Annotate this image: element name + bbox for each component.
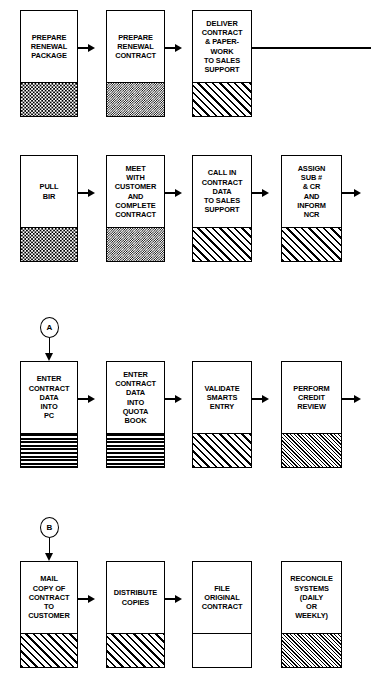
box-label: DELIVER CONTRACT & PAPER- WORK TO SALES … <box>193 11 251 82</box>
process-box-enter-contract-data-into-pc[interactable]: ENTER CONTRACT DATA INTO PC <box>20 361 78 468</box>
process-box-pull-bir[interactable]: PULL BIR <box>20 155 78 262</box>
box-label: ASSIGN SUB # & CR AND INFORM NCR <box>282 156 341 227</box>
process-box-reconcile-systems[interactable]: RECONCILE SYSTEMS (DAILY OR WEEKLY) <box>281 561 342 668</box>
connector-line <box>165 598 177 600</box>
process-box-perform-credit-review[interactable]: PERFORM CREDIT REVIEW <box>281 361 342 468</box>
box-fill-horizontal-lines <box>21 433 77 467</box>
process-box-assign-sub-cr[interactable]: ASSIGN SUB # & CR AND INFORM NCR <box>281 155 342 262</box>
arrow-right-exit <box>354 395 361 403</box>
box-label: PERFORM CREDIT REVIEW <box>282 362 341 433</box>
arrow-down <box>45 553 53 561</box>
connector-circle-b: B <box>40 517 59 538</box>
box-label: ENTER CONTRACT DATA INTO QUOTA BOOK <box>107 362 164 433</box>
connector-line <box>165 47 177 49</box>
connector-line <box>252 398 264 400</box>
process-box-call-in-contract-data[interactable]: CALL IN CONTRACT DATA TO SALES SUPPORT <box>192 155 252 262</box>
process-box-validate-smarts-entry[interactable]: VALIDATE SMARTS ENTRY <box>192 361 252 468</box>
box-label: CALL IN CONTRACT DATA TO SALES SUPPORT <box>193 156 251 227</box>
process-box-distribute-copies[interactable]: DISTRIBUTE COPIES <box>106 561 165 668</box>
box-label: VALIDATE SMARTS ENTRY <box>193 362 251 433</box>
box-label: DISTRIBUTE COPIES <box>107 562 164 633</box>
box-fill-empty <box>193 633 251 667</box>
process-box-prepare-renewal-package[interactable]: PREPARE RENEWAL PACKAGE <box>20 10 78 117</box>
flowchart-canvas: PREPARE RENEWAL PACKAGE PREPARE RENEWAL … <box>0 0 371 684</box>
connector-line <box>252 192 264 194</box>
process-box-file-original-contract[interactable]: FILE ORIGINAL CONTRACT <box>192 561 252 668</box>
box-fill-diagonal <box>282 227 341 261</box>
connector-line <box>78 598 90 600</box>
process-box-deliver-contract-paperwork[interactable]: DELIVER CONTRACT & PAPER- WORK TO SALES … <box>192 10 252 117</box>
box-label: PULL BIR <box>21 156 77 227</box>
box-label: FILE ORIGINAL CONTRACT <box>193 562 251 633</box>
process-box-prepare-renewal-contract[interactable]: PREPARE RENEWAL CONTRACT <box>106 10 165 117</box>
box-fill-diagonal <box>21 633 77 667</box>
box-fill-diagonal <box>193 433 251 467</box>
box-label: PREPARE RENEWAL PACKAGE <box>21 11 77 82</box>
box-fill-diagonal-fine <box>282 633 341 667</box>
box-label: ENTER CONTRACT DATA INTO PC <box>21 362 77 433</box>
connector-line <box>165 398 177 400</box>
box-label: MAIL COPY OF CONTRACT TO CUSTOMER <box>21 562 77 633</box>
connector-line <box>165 192 177 194</box>
box-fill-diagonal <box>193 227 251 261</box>
box-fill-check <box>107 227 164 261</box>
process-box-mail-copy-of-contract-to-customer[interactable]: MAIL COPY OF CONTRACT TO CUSTOMER <box>20 561 78 668</box>
box-label: PREPARE RENEWAL CONTRACT <box>107 11 164 82</box>
connector-line <box>78 192 90 194</box>
box-fill-diagonal <box>193 82 251 116</box>
box-fill-stipple <box>21 227 77 261</box>
box-label: MEET WITH CUSTOMER AND COMPLETE CONTRACT <box>107 156 164 227</box>
connector-line <box>78 398 90 400</box>
box-fill-stipple <box>21 82 77 116</box>
connector-label: A <box>47 324 53 332</box>
box-fill-horizontal-lines <box>107 433 164 467</box>
connector-circle-a: A <box>40 317 59 338</box>
arrow-down <box>45 353 53 361</box>
box-fill-diagonal-fine <box>282 433 341 467</box>
process-box-enter-contract-data-into-quota-book[interactable]: ENTER CONTRACT DATA INTO QUOTA BOOK <box>106 361 165 468</box>
box-label: RECONCILE SYSTEMS (DAILY OR WEEKLY) <box>282 562 341 633</box>
connector-label: B <box>47 524 53 532</box>
box-fill-check <box>107 82 164 116</box>
box-fill-diagonal <box>107 633 164 667</box>
arrow-right-exit <box>354 189 361 197</box>
connector-line <box>78 47 90 49</box>
process-box-meet-with-customer[interactable]: MEET WITH CUSTOMER AND COMPLETE CONTRACT <box>106 155 165 262</box>
flow-tail-line <box>252 47 371 49</box>
